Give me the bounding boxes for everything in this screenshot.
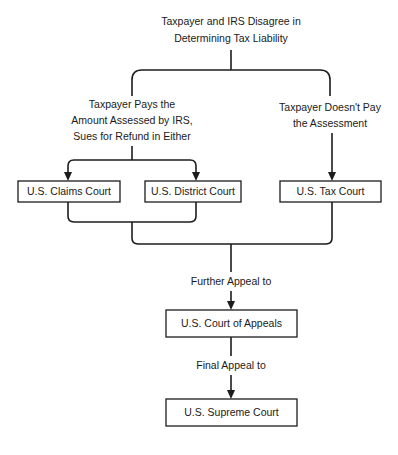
connector-top-split-bracket (132, 70, 330, 96)
node-supreme-court-label: U.S. Supreme Court (184, 406, 279, 418)
title-caption-line1: Taxpayer and IRS Disagree in (161, 15, 301, 27)
node-claims-court-label: U.S. Claims Court (27, 185, 111, 197)
right-branch-caption-line2: the Assessment (293, 117, 367, 129)
left-branch-caption-line3: Sues for Refund in Either (73, 130, 191, 142)
node-tax-court-label: U.S. Tax Court (296, 185, 364, 197)
title-caption-line2: Determining Tax Liability (174, 32, 288, 44)
left-branch-caption-line1: Taxpayer Pays the (89, 98, 176, 110)
left-branch-caption-line2: Amount Assessed by IRS, (71, 114, 192, 126)
arrow-into-supreme-court (227, 390, 235, 399)
final-appeal-caption: Final Appeal to (196, 359, 266, 371)
node-district-court-label: U.S. District Court (151, 185, 235, 197)
flowchart-canvas: Taxpayer and IRS Disagree in Determining… (0, 0, 398, 455)
arrow-into-court-of-appeals (227, 301, 235, 310)
node-court-of-appeals-label: U.S. Court of Appeals (181, 317, 282, 329)
connector-outer-merge-bracket (132, 202, 332, 244)
arrow-into-claims-court (64, 172, 72, 181)
further-appeal-caption: Further Appeal to (191, 275, 272, 287)
tax-dispute-flowchart: Taxpayer and IRS Disagree in Determining… (0, 0, 398, 455)
arrow-into-tax-court (328, 172, 336, 181)
arrow-into-district-court (192, 172, 200, 181)
connector-left-sub-split-bracket (68, 160, 196, 175)
connector-inner-merge-bracket (68, 202, 196, 222)
right-branch-caption-line1: Taxpayer Doesn't Pay (279, 101, 382, 113)
